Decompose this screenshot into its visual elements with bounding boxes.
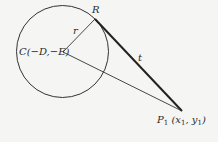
center-to-point-line: [63, 52, 182, 111]
label-t: t: [138, 53, 142, 63]
label-R: R: [92, 5, 100, 15]
diagram-stage: R r t C(−D,−E) P1 (x1, y1): [0, 0, 218, 142]
label-P1-main: P: [157, 114, 164, 125]
label-P1-close: ): [202, 114, 206, 125]
tangent-line: [95, 19, 182, 111]
label-r: r: [73, 26, 78, 36]
label-P1-open: (x: [168, 114, 181, 125]
label-C: C(−D,−E): [19, 47, 69, 57]
label-P1-comma: , y: [185, 114, 197, 125]
label-P1: P1 (x1, y1): [157, 115, 206, 127]
